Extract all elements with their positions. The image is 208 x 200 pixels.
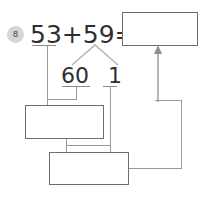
connector-part-a-horizontal xyxy=(47,99,77,100)
underline-addend-53 xyxy=(32,45,56,46)
work-box-2[interactable] xyxy=(49,152,129,185)
answer-box[interactable] xyxy=(122,12,198,46)
connector-part-b-vertical xyxy=(110,86,111,153)
connector-answer-horizontal xyxy=(129,168,182,169)
connector-part-a-vertical xyxy=(76,86,77,99)
work-box-1[interactable] xyxy=(25,105,104,139)
decomposition-part-a: 60 xyxy=(61,63,89,88)
arrow-up-icon xyxy=(152,44,164,102)
connector-workbox1-horizontal xyxy=(66,145,110,146)
worksheet-problem: 8 53+59= 60 1 xyxy=(0,0,208,200)
decomposition-part-b: 1 xyxy=(108,63,122,88)
connector-53-vertical xyxy=(47,45,48,106)
connector-answer-vertical-right xyxy=(181,100,182,168)
problem-number-badge: 8 xyxy=(7,26,24,43)
